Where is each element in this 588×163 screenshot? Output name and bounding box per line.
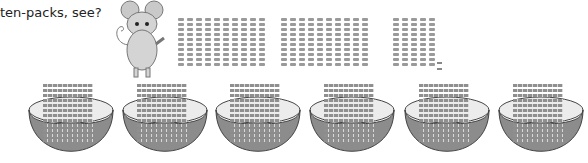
ten-pack-stack [419,84,469,142]
ten-pack [178,18,184,66]
single-stick [437,68,442,70]
ten-pack-stack [324,84,374,142]
ten-pack [290,18,296,66]
bowl [121,80,211,163]
ten-pack-group [393,18,435,66]
ten-pack [299,18,305,66]
ten-pack-stack [513,84,563,142]
ten-pack [393,18,399,66]
ten-pack [402,18,408,66]
ten-pack [281,18,287,66]
ten-pack [420,18,426,66]
ten-pack [250,18,256,66]
ten-pack [223,18,229,66]
ten-pack [259,18,265,66]
ten-pack [241,18,247,66]
bowl [27,80,117,163]
bowl [308,80,398,163]
bowl [403,80,493,163]
caption-text: ten-packs, see? [0,5,102,20]
ten-pack [326,18,332,66]
ten-pack [335,18,341,66]
ten-pack-stack [230,84,280,142]
bowl [214,80,304,163]
ten-pack-group [178,18,265,66]
bowl [497,80,587,163]
ten-pack [205,18,211,66]
ten-pack-stack [137,84,187,142]
ten-pack [196,18,202,66]
ten-pack [232,18,238,66]
single-stick [437,62,442,64]
ten-pack [362,18,368,66]
ten-pack [344,18,350,66]
ten-pack [214,18,220,66]
ten-pack [317,18,323,66]
ten-pack [187,18,193,66]
ten-pack-stack [43,84,93,142]
ten-pack-group [281,18,368,66]
ten-pack [308,18,314,66]
mouse-icon [112,0,174,80]
ten-pack [429,18,435,66]
ten-pack [411,18,417,66]
single-sticks [437,62,442,70]
ten-pack [353,18,359,66]
